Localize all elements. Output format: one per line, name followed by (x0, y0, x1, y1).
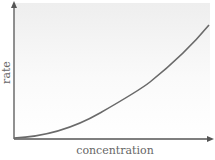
plot-background (14, 3, 210, 139)
x-axis-label: concentration (60, 144, 170, 157)
chart-plot (0, 0, 215, 160)
y-axis-label: rate (0, 58, 13, 88)
x-axis-arrow-icon (207, 136, 214, 142)
rate-concentration-chart: rate concentration (0, 0, 215, 160)
